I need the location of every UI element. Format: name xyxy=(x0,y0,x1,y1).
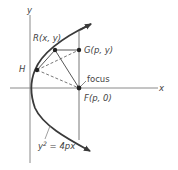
parabola-diagram: y x R(x, y) G(p, y) H focus F(p, 0) y2 =… xyxy=(0,0,178,170)
segment-H-F-dashed xyxy=(37,70,79,88)
x-axis-label: x xyxy=(158,83,165,93)
parabola-top-arrow xyxy=(80,24,91,30)
equation-label: y2 = 4px xyxy=(37,140,76,151)
label-focus: focus xyxy=(87,74,110,84)
label-H: H xyxy=(19,64,26,74)
label-G: G(p, y) xyxy=(84,45,113,55)
label-F: F(p, 0) xyxy=(84,93,112,103)
segment-R-F xyxy=(55,50,79,88)
point-F-focus xyxy=(77,86,82,91)
label-R: R(x, y) xyxy=(33,33,61,43)
y-axis-label: y xyxy=(26,5,33,15)
point-G xyxy=(77,48,81,52)
segment-H-G-dashed xyxy=(37,50,79,70)
diagram-canvas: y x R(x, y) G(p, y) H focus F(p, 0) y2 =… xyxy=(0,0,178,170)
focus-leader-line xyxy=(81,81,86,86)
equation-rhs: = 4px xyxy=(47,141,76,151)
point-H xyxy=(35,68,39,72)
point-R xyxy=(53,48,57,52)
equation-leader-line xyxy=(45,126,50,139)
